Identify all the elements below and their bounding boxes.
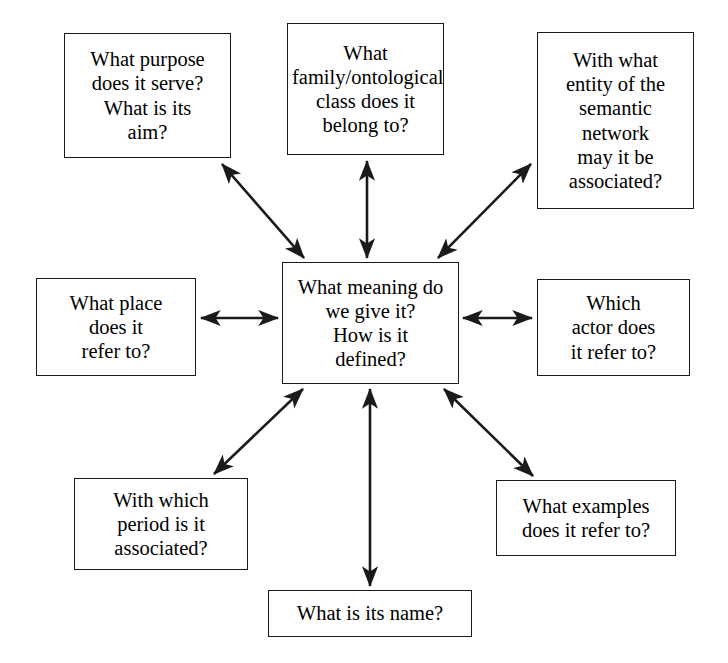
node-bottom-center-label: What is its name? — [273, 601, 467, 625]
node-top-center-label: What family/ontological class does it be… — [292, 41, 439, 138]
node-center-label: What meaning do we give it? How is it de… — [287, 275, 454, 372]
node-top-right-label: With what entity of the semantic network… — [542, 48, 689, 193]
node-mid-right[interactable]: Which actor does it refer to? — [537, 279, 690, 376]
node-top-right[interactable]: With what entity of the semantic network… — [537, 32, 694, 209]
node-top-left-label: What purpose does it serve? What is its … — [69, 47, 226, 144]
node-bottom-right[interactable]: What examples does it refer to? — [496, 480, 676, 556]
connector-center-top-right — [438, 164, 531, 258]
node-mid-left-label: What place does it refer to? — [41, 291, 191, 364]
node-mid-left[interactable]: What place does it refer to? — [36, 278, 196, 376]
node-mid-right-label: Which actor does it refer to? — [542, 291, 685, 364]
node-bottom-right-label: What examples does it refer to? — [501, 494, 671, 542]
diagram-canvas: What purpose does it serve? What is its … — [0, 0, 728, 663]
node-top-left[interactable]: What purpose does it serve? What is its … — [64, 33, 231, 158]
connector-center-top-left — [222, 164, 304, 258]
connector-center-bottom-left — [214, 389, 303, 474]
node-bottom-left[interactable]: With which period is it associated? — [74, 478, 248, 570]
node-bottom-left-label: With which period is it associated? — [79, 488, 243, 561]
node-bottom-center[interactable]: What is its name? — [268, 590, 472, 637]
node-top-center[interactable]: What family/ontological class does it be… — [287, 23, 444, 155]
connector-center-bottom-right — [444, 389, 533, 476]
node-center[interactable]: What meaning do we give it? How is it de… — [282, 262, 459, 384]
